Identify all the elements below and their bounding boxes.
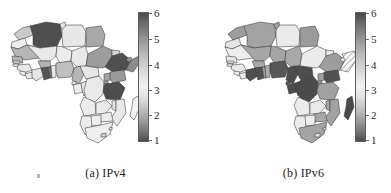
colorbar-label-1: 1 <box>371 135 377 146</box>
colorbar-tick-3 <box>149 90 152 91</box>
region-kenya <box>110 70 126 83</box>
region-benin <box>51 65 56 78</box>
panel-ipv6: 6 5 4 3 2 1 (b) IPv6 <box>196 0 391 193</box>
colorbar-tick-2 <box>149 115 152 116</box>
colorbar-ipv4: 6 5 4 3 2 1 <box>136 12 176 142</box>
region-nigeria <box>56 61 74 78</box>
colorbar-label-5: 5 <box>371 34 377 45</box>
colorbar-label-4: 4 <box>154 60 160 71</box>
colorbar-label-3: 3 <box>154 85 160 96</box>
colorbar-label-2: 2 <box>371 110 377 121</box>
region-kenya <box>324 70 340 83</box>
panel-ipv4: 6 5 4 3 2 1 (a) IPv4 <box>0 0 195 193</box>
colorbar-label-1: 1 <box>154 135 160 146</box>
region-libya <box>62 25 86 47</box>
region-chad <box>71 46 88 67</box>
africa-map-ipv6 <box>214 4 374 152</box>
region-tanzania <box>317 82 339 100</box>
region-gambia <box>227 61 234 63</box>
colorbar-gradient-ipv6 <box>355 12 366 142</box>
colorbar-ipv6: 6 5 4 3 2 1 <box>353 12 391 142</box>
region-gambia <box>13 61 20 63</box>
colorbar-label-3: 3 <box>371 85 377 96</box>
colorbar-label-5: 5 <box>154 34 160 45</box>
region-malawi <box>112 100 116 111</box>
region-tanzania <box>103 82 125 100</box>
region-sierra-leone <box>20 71 26 76</box>
colorbar-tick-2 <box>366 115 369 116</box>
colorbar-tick-5 <box>366 39 369 40</box>
colorbar-tick-1 <box>366 140 369 141</box>
region-algeria <box>30 22 62 48</box>
colorbar-tick-3 <box>366 90 369 91</box>
region-zimbabwe <box>100 112 113 122</box>
region-zambia <box>310 100 326 114</box>
caption-ipv6: (b) IPv6 <box>196 166 391 180</box>
region-zambia <box>96 100 112 114</box>
colorbar-tick-6 <box>366 13 369 14</box>
region-niger <box>56 46 72 63</box>
region-egypt <box>86 26 105 47</box>
region-sierra-leone <box>234 71 240 76</box>
region-algeria <box>244 22 276 48</box>
colorbar-tick-4 <box>149 65 152 66</box>
colorbar-tick-1 <box>149 140 152 141</box>
region-lesotho <box>101 133 106 137</box>
figure-container: 6 5 4 3 2 1 (a) IPv4 <box>0 0 391 193</box>
region-malawi <box>326 100 330 111</box>
colorbar-tick-4 <box>366 65 369 66</box>
region-chad <box>285 46 302 67</box>
colorbar-label-6: 6 <box>154 8 160 19</box>
region-lesotho <box>315 133 320 137</box>
africa-choropleth-svg-ipv6 <box>214 4 374 152</box>
caption-ipv4: (a) IPv4 <box>0 166 203 180</box>
region-egypt <box>300 26 319 47</box>
colorbar-gradient-ipv4 <box>138 12 149 142</box>
colorbar-tick-5 <box>149 39 152 40</box>
colorbar-label-2: 2 <box>154 110 160 121</box>
region-nigeria <box>270 61 288 78</box>
colorbar-tick-6 <box>149 13 152 14</box>
colorbar-label-6: 6 <box>371 8 377 19</box>
region-zimbabwe <box>314 112 327 122</box>
region-libya <box>276 25 300 47</box>
region-niger <box>270 46 286 63</box>
colorbar-label-4: 4 <box>371 60 377 71</box>
region-benin <box>265 65 270 78</box>
